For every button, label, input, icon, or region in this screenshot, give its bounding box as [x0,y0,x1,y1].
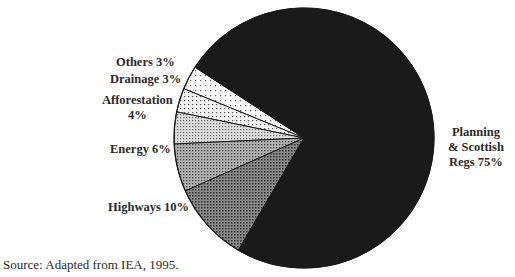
source-caption: Source: Adapted from IEA, 1995. [3,257,178,273]
label-highways: Highways 10% [108,200,189,215]
label-planning-line1: Planning [448,125,504,140]
label-energy: Energy 6% [110,142,171,157]
pie-chart [0,0,515,277]
label-planning-line3: Regs 75% [448,155,504,170]
pie-slices [174,8,434,268]
label-afforestation-line2: 4% [102,108,173,123]
label-afforestation-line1: Afforestation [102,93,173,108]
label-planning: Planning & Scottish Regs 75% [448,125,504,170]
label-planning-line2: & Scottish [448,140,504,155]
label-others: Others 3% [116,55,175,70]
label-drainage: Drainage 3% [110,72,181,87]
label-afforestation: Afforestation 4% [102,93,173,123]
